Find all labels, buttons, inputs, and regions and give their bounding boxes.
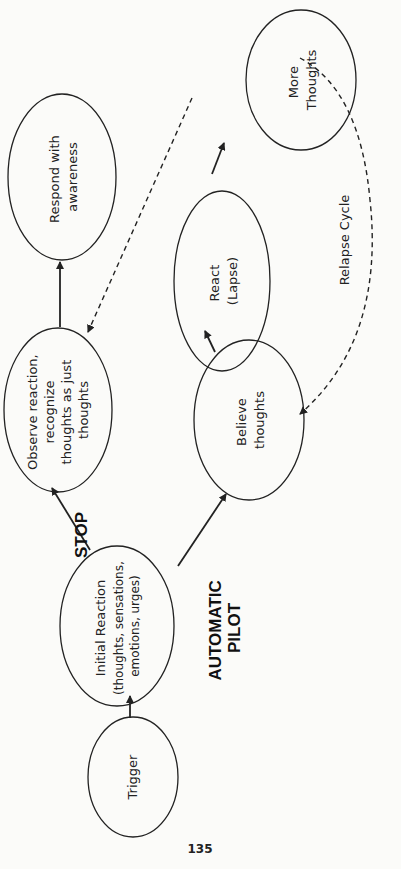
node-respond-with-awareness: Respond with awareness [8, 94, 116, 260]
node-react-lapse: React (Lapse) [174, 191, 270, 371]
automatic-pilot-label: AUTOMATIC PILOT [206, 575, 244, 680]
edge-believe-to-react [205, 331, 215, 352]
node-believe-label: Believe thoughts [234, 391, 267, 449]
edge-initial-to-believe [178, 494, 226, 566]
edge-react-to-more [212, 143, 224, 174]
node-trigger-label: Trigger [125, 754, 140, 800]
node-trigger: Trigger [88, 717, 178, 837]
node-observe-reaction: Observe reaction, recognize thoughts as … [4, 328, 112, 492]
stop-label: STOP [72, 512, 91, 558]
node-react-label: React (Lapse) [207, 257, 240, 305]
node-initial-reaction: Initial Reaction (thoughts, sensations, … [60, 546, 174, 706]
node-observe-reaction-label: Observe reaction, recognize thoughts as … [25, 350, 91, 470]
node-believe-thoughts: Believe thoughts [194, 340, 304, 500]
edge-more-to-observe-dashed [88, 98, 192, 332]
relapse-cycle-label: Relapse Cycle [337, 195, 352, 286]
node-initial-reaction-label: Initial Reaction (thoughts, sensations, … [93, 557, 142, 695]
page-number: 135 [187, 842, 212, 856]
node-respond-label: Respond with awareness [47, 131, 80, 223]
relapse-cycle-diagram: Trigger Initial Reaction (thoughts, sens… [0, 0, 401, 869]
node-more-thoughts: More Thoughts [246, 10, 356, 150]
